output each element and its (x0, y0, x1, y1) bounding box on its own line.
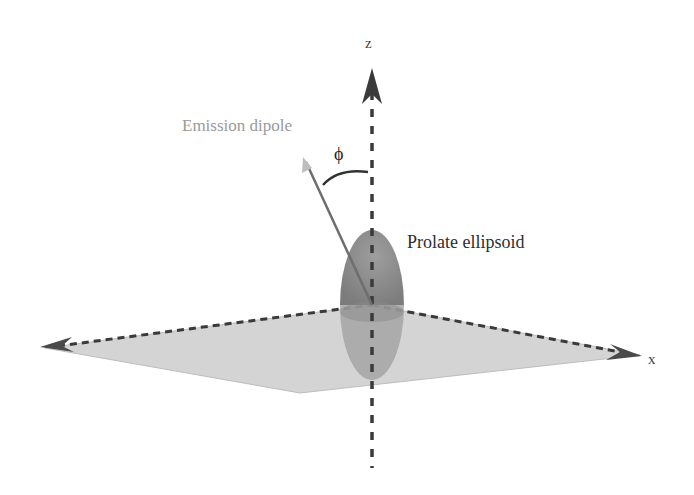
z-axis-label: z (365, 35, 372, 52)
emission-dipole-vector (306, 162, 372, 305)
dipole-orientation-diagram: z x ϕ Emission dipole Prolate ellipsoid (0, 0, 694, 495)
phi-angle-arc (323, 171, 368, 185)
prolate-ellipsoid-label: Prolate ellipsoid (407, 232, 524, 253)
x-axis-label: x (648, 351, 656, 368)
phi-angle-label: ϕ (334, 144, 343, 165)
diagram-canvas (0, 0, 694, 495)
emission-dipole-label: Emission dipole (182, 116, 292, 136)
